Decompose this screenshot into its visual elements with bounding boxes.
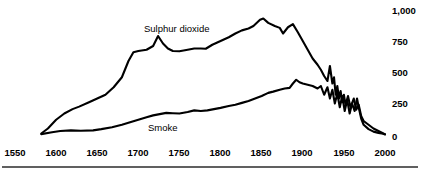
y-tick-label-750: 750 xyxy=(392,36,408,47)
y-tick-label-1000: 1,000 xyxy=(392,5,416,16)
x-tick-label-1700: 1700 xyxy=(127,147,148,158)
x-tick-label-1800: 1800 xyxy=(209,147,230,158)
x-tick-label-1900: 1900 xyxy=(291,147,312,158)
x-tick-label-1850: 1850 xyxy=(250,147,271,158)
x-tick-label-1650: 1650 xyxy=(86,147,107,158)
x-tick-label-1750: 1750 xyxy=(168,147,189,158)
chart-plot-area: 1,000 750 500 250 0 1550 1600 1650 1700 … xyxy=(0,0,422,174)
y-tick-label-250: 250 xyxy=(392,98,408,109)
x-tick-label-2000: 2000 xyxy=(374,147,395,158)
x-tick-label-1950: 1950 xyxy=(333,147,354,158)
sulphur-dioxide-label: Sulphur dioxide xyxy=(144,23,210,34)
y-tick-label-500: 500 xyxy=(392,67,408,78)
x-tick-label-1600: 1600 xyxy=(45,147,66,158)
y-tick-label-0: 0 xyxy=(392,131,397,142)
series-annotations: Sulphur dioxide Smoke xyxy=(144,23,210,133)
x-tick-label-1550: 1550 xyxy=(4,147,25,158)
series-line-sulphur-dioxide xyxy=(41,19,385,135)
series-line-smoke xyxy=(41,80,385,135)
y-axis-tick-labels: 1,000 750 500 250 0 xyxy=(392,5,416,142)
x-axis-tick-labels: 1550 1600 1650 1700 1750 1800 1850 1900 … xyxy=(4,147,395,158)
series-group xyxy=(41,19,385,135)
smoke-label: Smoke xyxy=(148,122,178,133)
chart-figure: 1,000 750 500 250 0 1550 1600 1650 1700 … xyxy=(0,0,422,174)
